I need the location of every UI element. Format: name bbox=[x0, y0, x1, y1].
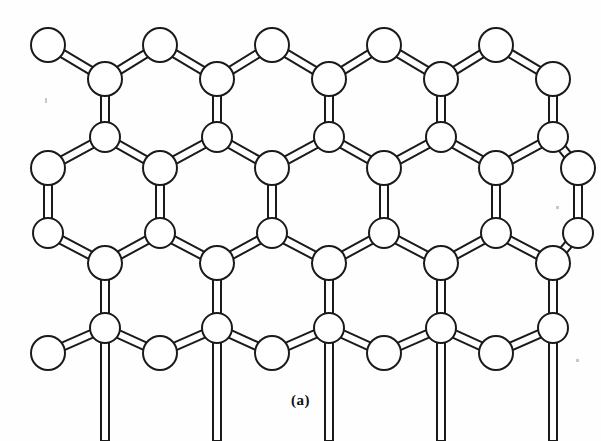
atom bbox=[143, 28, 177, 62]
lattice-diagram bbox=[0, 0, 601, 441]
bond-stub bbox=[325, 328, 333, 441]
atom bbox=[561, 151, 595, 185]
atom bbox=[424, 246, 458, 280]
atom bbox=[312, 62, 346, 96]
atom bbox=[145, 218, 175, 248]
atom bbox=[479, 336, 513, 370]
atom bbox=[538, 313, 568, 343]
atom bbox=[536, 246, 570, 280]
atom bbox=[202, 313, 232, 343]
atom bbox=[314, 122, 344, 152]
scan-speck-right bbox=[556, 206, 559, 209]
bond-stub bbox=[101, 328, 109, 441]
atom bbox=[143, 151, 177, 185]
atom bbox=[88, 62, 122, 96]
atom bbox=[563, 218, 593, 248]
atom bbox=[143, 336, 177, 370]
atom bbox=[426, 313, 456, 343]
atom bbox=[312, 246, 346, 280]
bond-stub bbox=[549, 328, 557, 441]
atom bbox=[200, 246, 234, 280]
atom bbox=[88, 246, 122, 280]
atom bbox=[200, 62, 234, 96]
scan-speck-left bbox=[45, 98, 47, 103]
figure-container: (a) bbox=[0, 0, 601, 441]
atom bbox=[90, 313, 120, 343]
atom bbox=[33, 218, 63, 248]
atom bbox=[426, 122, 456, 152]
bond-stub bbox=[437, 328, 445, 441]
atoms-layer bbox=[31, 28, 595, 370]
atom bbox=[367, 336, 401, 370]
atom bbox=[255, 28, 289, 62]
atom bbox=[479, 28, 513, 62]
atom bbox=[90, 122, 120, 152]
atom bbox=[536, 62, 570, 96]
atom bbox=[202, 122, 232, 152]
atom bbox=[479, 151, 513, 185]
atom bbox=[314, 313, 344, 343]
atom bbox=[257, 218, 287, 248]
atom bbox=[424, 62, 458, 96]
atom bbox=[255, 151, 289, 185]
atom bbox=[538, 122, 568, 152]
atom bbox=[31, 336, 65, 370]
scan-speck-bottom bbox=[576, 359, 579, 362]
bond-stub bbox=[213, 328, 221, 441]
atom bbox=[31, 28, 65, 62]
figure-caption: (a) bbox=[0, 392, 601, 409]
atom bbox=[367, 28, 401, 62]
atom bbox=[255, 336, 289, 370]
atom bbox=[31, 151, 65, 185]
atom bbox=[481, 218, 511, 248]
atom bbox=[367, 151, 401, 185]
atom bbox=[369, 218, 399, 248]
